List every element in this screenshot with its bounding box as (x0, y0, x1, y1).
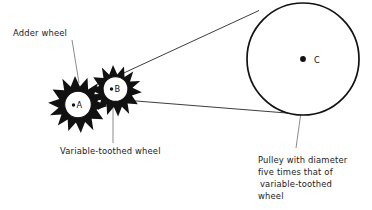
pulley-caption-line-2: five times that of (258, 167, 334, 177)
pulley-caption: Pulley with diameter five times that of … (258, 155, 348, 201)
pulley-center-dot (300, 56, 306, 62)
adder-wheel-leader-line (72, 40, 79, 83)
adder-wheel-point-label: A (77, 100, 83, 110)
pulley-point-label: C (314, 55, 320, 65)
variable-toothed-wheel-label: Variable-toothed wheel (60, 146, 161, 156)
pulley-caption-line-3: variable-toothed (260, 179, 332, 189)
adder-wheel-center-dot (72, 103, 75, 106)
belt-upper-strand (121, 11, 260, 75)
pulley-group: C (247, 3, 359, 115)
pulley-caption-line-1: Pulley with diameter (258, 155, 348, 165)
diagram-canvas: C A B Adder wheel Variable-toothed wheel… (0, 0, 372, 210)
variable-toothed-wheel-center-dot (110, 87, 113, 90)
adder-wheel-label: Adder wheel (13, 28, 67, 38)
mechanism-diagram: C A B Adder wheel Variable-toothed wheel… (0, 0, 372, 210)
pulley-caption-line-4: wheel (258, 191, 284, 201)
variable-toothed-wheel-point-label: B (115, 84, 121, 94)
